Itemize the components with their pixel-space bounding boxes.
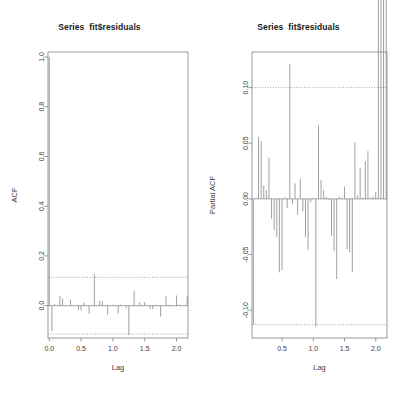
acf-panel: Series fit$residuals 0.00.51.01.52.0Lag0…: [0, 0, 199, 408]
y-tick-label: 0.0: [38, 301, 45, 311]
pacf-x-axis: 0.51.01.52.0: [277, 338, 381, 352]
y-tick-label: 0.2: [38, 251, 45, 261]
acf-spikes: [49, 57, 187, 335]
x-tick-label: 0.5: [76, 345, 86, 352]
y-tick-label: 0.00: [242, 192, 249, 206]
acf-x-axis: 0.00.51.01.52.0: [44, 338, 181, 352]
pacf-y-axis: -0.10-0.050.000.050.10: [242, 81, 252, 318]
figure-root: Series fit$residuals 0.00.51.01.52.0Lag0…: [0, 0, 398, 408]
pacf-plot-canvas: 0.51.01.52.0Lag-0.10-0.050.000.050.10Par…: [199, 0, 398, 408]
pacf-plot-frame: [252, 52, 387, 338]
acf-y-axis: 0.00.20.40.60.81.0: [38, 52, 48, 311]
x-tick-label: 1.0: [108, 345, 118, 352]
x-tick-label: 2.0: [371, 345, 381, 352]
x-tick-label: 2.0: [172, 345, 182, 352]
y-tick-label: 0.05: [242, 136, 249, 150]
acf-plot-canvas: 0.00.51.01.52.0Lag0.00.20.40.60.81.0ACF: [0, 0, 199, 408]
acf-y-axis-title: ACF: [10, 187, 19, 202]
y-tick-label: 0.4: [38, 201, 45, 211]
pacf-spikes: [253, 0, 386, 327]
pacf-y-axis-title: Partial ACF: [208, 176, 217, 214]
x-tick-label: 1.5: [340, 345, 350, 352]
pacf-x-axis-title: Lag: [313, 363, 326, 372]
y-tick-label: -0.05: [242, 246, 249, 262]
y-tick-label: 0.10: [242, 81, 249, 95]
acf-plot-frame: [48, 52, 188, 338]
x-tick-label: 0.5: [277, 345, 287, 352]
y-tick-label: 1.0: [38, 52, 45, 62]
x-tick-label: 0.0: [44, 345, 54, 352]
y-tick-label: 0.6: [38, 151, 45, 161]
x-tick-label: 1.5: [140, 345, 150, 352]
pacf-panel: Series fit$residuals 0.51.01.52.0Lag-0.1…: [199, 0, 398, 408]
y-tick-label: 0.8: [38, 102, 45, 112]
acf-x-axis-title: Lag: [112, 363, 125, 372]
y-tick-label: -0.10: [242, 302, 249, 318]
x-tick-label: 1.0: [308, 345, 318, 352]
